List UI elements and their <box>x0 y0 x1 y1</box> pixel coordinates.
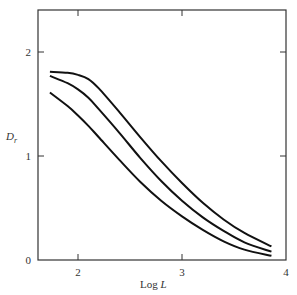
x-tick-label: 4 <box>283 266 289 278</box>
x-axis-label: Log L <box>140 278 167 290</box>
curve-upper <box>50 72 272 247</box>
plot-frame <box>38 10 286 260</box>
x-tick-label: 2 <box>75 266 81 278</box>
ticks: 234012 <box>26 10 290 278</box>
x-tick-label: 3 <box>179 266 185 278</box>
y-tick-label: 2 <box>26 46 32 58</box>
y-tick-label: 0 <box>26 254 32 266</box>
curves <box>50 72 272 256</box>
y-tick-label: 1 <box>26 150 32 162</box>
curve-middle <box>50 76 272 252</box>
curve-lower <box>50 93 272 256</box>
chart: 234012 Dr Log L <box>0 0 297 295</box>
y-axis-label: Dr <box>5 130 18 145</box>
